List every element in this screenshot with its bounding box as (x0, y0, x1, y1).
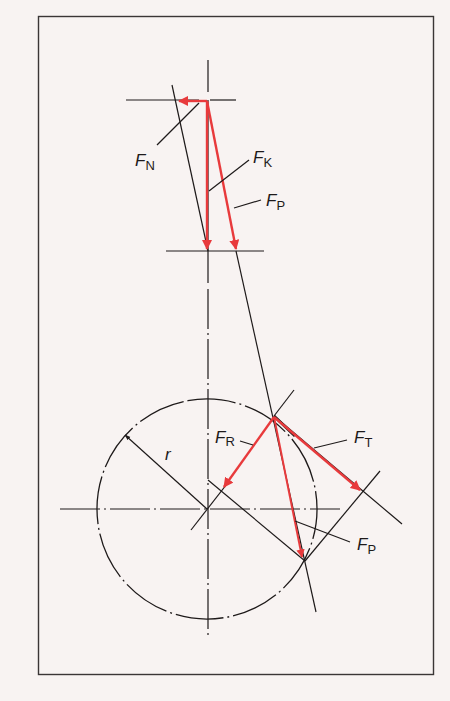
label-fr: FR (215, 428, 235, 449)
force-fr-arrow (224, 417, 274, 487)
leader-lines (157, 103, 350, 542)
label-radius: r (165, 445, 172, 464)
label-fp-top: FP (266, 191, 285, 213)
figure-frame (39, 17, 434, 675)
label-fp-bottom: FP (357, 535, 376, 557)
radial-extension-line (274, 390, 294, 416)
label-fn: FN (135, 151, 155, 173)
crank-force-diagram: FN FK FP FR FT FP r (0, 0, 450, 701)
label-ft: FT (354, 428, 372, 450)
tangent-parallel-line (208, 480, 305, 561)
rod-parallel-line (172, 85, 208, 251)
force-fp-top-arrow (207, 101, 236, 249)
radial-line-center (191, 480, 230, 530)
label-fk: FK (253, 148, 272, 170)
